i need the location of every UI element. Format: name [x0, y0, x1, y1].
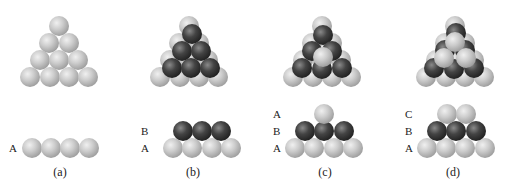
light-sphere: [78, 67, 98, 87]
layer-label: C: [405, 108, 412, 120]
light-sphere: [68, 50, 88, 70]
layer-label: A: [9, 142, 17, 154]
dark-sphere: [211, 121, 231, 141]
sphere-packing-diagram: A(a)BA(b)ABA(c)CBA(d): [0, 0, 507, 189]
light-sphere: [455, 138, 475, 158]
light-sphere: [79, 138, 99, 158]
dark-sphere: [292, 58, 312, 78]
dark-sphere: [295, 121, 315, 141]
light-sphere: [163, 138, 183, 158]
light-sphere: [313, 47, 333, 67]
dark-sphere: [446, 121, 466, 141]
top-view-b: [150, 16, 228, 87]
top-view-c: [283, 16, 361, 87]
side-view-a: [22, 138, 99, 158]
light-sphere: [30, 50, 50, 70]
dark-sphere: [200, 58, 220, 78]
light-sphere: [40, 67, 60, 87]
layer-label: B: [405, 125, 412, 137]
top-view-a: [20, 16, 98, 87]
dark-sphere: [191, 41, 211, 61]
side-view-b: [163, 121, 241, 158]
light-sphere: [304, 138, 324, 158]
layer-label: B: [273, 125, 280, 137]
panel-a: A(a): [9, 16, 99, 179]
light-sphere: [324, 138, 344, 158]
panel-caption: (c): [318, 165, 331, 179]
dark-sphere: [334, 121, 354, 141]
dark-sphere: [172, 41, 192, 61]
side-view-c: [285, 104, 363, 158]
side-view-d: [417, 104, 495, 158]
light-sphere: [314, 104, 334, 124]
dark-sphere: [181, 58, 201, 78]
light-sphere: [417, 138, 437, 158]
dark-sphere: [427, 121, 447, 141]
top-view-d: [416, 16, 494, 87]
layer-label: A: [405, 142, 413, 154]
light-sphere: [202, 138, 222, 158]
light-sphere: [49, 16, 69, 36]
light-sphere: [20, 67, 40, 87]
light-sphere: [182, 138, 202, 158]
dark-sphere: [192, 121, 212, 141]
layer-label: B: [141, 125, 148, 137]
dark-sphere: [173, 121, 193, 141]
light-sphere: [22, 138, 42, 158]
light-sphere: [343, 138, 363, 158]
light-sphere: [60, 138, 80, 158]
dark-sphere: [182, 24, 202, 44]
light-sphere: [434, 48, 454, 68]
panel-d: CBA(d): [405, 16, 495, 179]
light-sphere: [41, 138, 61, 158]
light-sphere: [437, 104, 457, 124]
light-sphere: [49, 50, 69, 70]
dark-sphere: [466, 121, 486, 141]
light-sphere: [59, 67, 79, 87]
light-sphere: [221, 138, 241, 158]
light-sphere: [39, 33, 59, 53]
panel-caption: (b): [186, 165, 200, 179]
light-sphere: [436, 138, 456, 158]
light-sphere: [456, 48, 476, 68]
dark-sphere: [162, 58, 182, 78]
panel-caption: (a): [53, 165, 66, 179]
dark-sphere: [332, 58, 352, 78]
light-sphere: [59, 33, 79, 53]
panel-caption: (d): [446, 165, 460, 179]
light-sphere: [285, 138, 305, 158]
layer-label: A: [141, 142, 149, 154]
diagram-canvas: A(a)BA(b)ABA(c)CBA(d): [0, 0, 507, 189]
layer-label: A: [273, 142, 281, 154]
light-sphere: [475, 138, 495, 158]
panel-b: BA(b): [141, 16, 241, 179]
layer-label: A: [273, 108, 281, 120]
light-sphere: [456, 104, 476, 124]
panel-c: ABA(c): [273, 16, 363, 179]
